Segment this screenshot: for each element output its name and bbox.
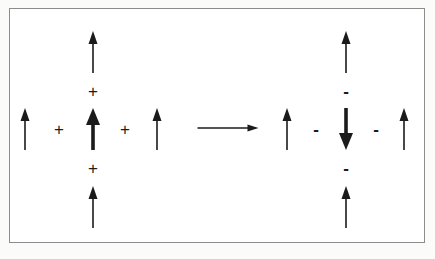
right-outer-up-arrow [282, 108, 293, 150]
left-inner-up-arrow [152, 108, 163, 150]
plus-sign-1: + [54, 121, 64, 138]
plus-sign-4: + [88, 160, 98, 177]
left-center-top-up-arrow [88, 31, 99, 73]
figure-canvas: ++++ ---- [0, 0, 435, 259]
right-center-top-up-arrow [341, 31, 352, 73]
minus-sign-4: - [343, 160, 349, 177]
right-center-main-down-arrow [338, 108, 354, 150]
minus-sign-2: - [373, 121, 379, 138]
minus-sign-1: - [313, 121, 319, 138]
plus-sign-3: + [88, 83, 98, 100]
left-center-bottom-up-arrow [88, 186, 99, 228]
left-outer-up-arrow [20, 108, 31, 150]
left-center-main-up-arrow [85, 108, 101, 150]
plus-sign-2: + [120, 121, 130, 138]
right-center-bottom-up-arrow [341, 186, 352, 228]
minus-sign-3: - [343, 83, 349, 100]
right-inner-up-arrow [399, 108, 410, 150]
reaction-arrow [197, 121, 258, 136]
